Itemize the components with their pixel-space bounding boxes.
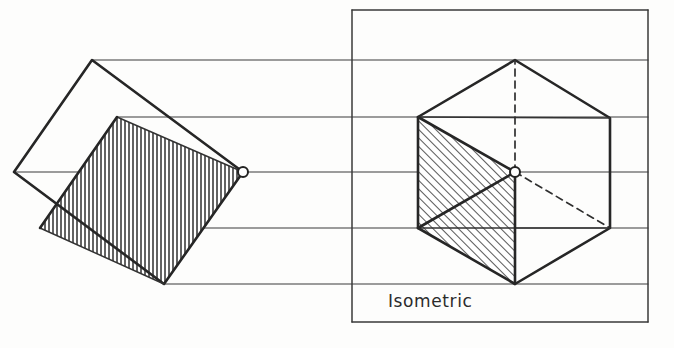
front-view-vertex-marker xyxy=(238,167,248,177)
drawing-canvas: Isometric xyxy=(0,0,674,348)
technical-drawing-figure: Isometric xyxy=(0,0,674,348)
isometric-center-marker xyxy=(510,167,520,177)
isometric-label: Isometric xyxy=(388,291,472,311)
isometric-edge-top-horizontal xyxy=(418,117,610,118)
